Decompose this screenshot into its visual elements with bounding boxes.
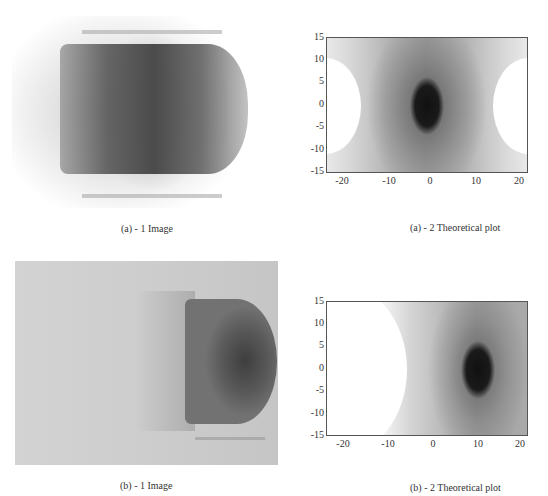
image-dark-region — [60, 44, 248, 174]
panel-a2-plot — [326, 37, 528, 173]
x-tick: -10 — [377, 175, 401, 186]
x-tick: 20 — [507, 175, 531, 186]
caption-b2: (b) - 2 Theoretical plot — [410, 482, 501, 493]
y-tick: -15 — [302, 165, 324, 176]
caption-a2: (a) - 2 Theoretical plot — [410, 222, 500, 233]
panel-b2-plot — [326, 301, 528, 436]
caption-a1: (a) - 1 Image — [121, 223, 173, 234]
image-stripe-bottom — [82, 194, 222, 198]
y-tick: -5 — [302, 120, 324, 131]
y-tick: 15 — [302, 31, 324, 42]
x-tick: -20 — [331, 438, 355, 449]
caption-b1: (b) - 1 Image — [120, 480, 172, 491]
image-stripe-top — [82, 30, 222, 34]
x-tick: 10 — [464, 175, 488, 186]
x-tick: -20 — [330, 175, 354, 186]
panel-b1-image — [15, 261, 278, 465]
y-tick: 10 — [302, 53, 324, 64]
y-tick: -5 — [302, 384, 324, 395]
y-tick: 0 — [302, 98, 324, 109]
x-tick: 10 — [466, 438, 490, 449]
y-tick: 5 — [302, 75, 324, 86]
y-tick: 5 — [302, 339, 324, 350]
x-tick: 0 — [421, 438, 445, 449]
y-tick: -10 — [302, 143, 324, 154]
white-region-left — [326, 301, 407, 436]
y-tick: 15 — [302, 295, 324, 306]
image-stripe-bottom — [195, 437, 265, 440]
y-tick: -15 — [302, 429, 324, 440]
y-tick: -10 — [302, 407, 324, 418]
panel-a1-image — [12, 12, 248, 217]
y-tick: 0 — [302, 362, 324, 373]
image-dark-region — [185, 299, 277, 424]
y-tick: 10 — [302, 317, 324, 328]
x-tick: -10 — [376, 438, 400, 449]
x-tick: 0 — [418, 175, 442, 186]
x-tick: 20 — [508, 438, 532, 449]
